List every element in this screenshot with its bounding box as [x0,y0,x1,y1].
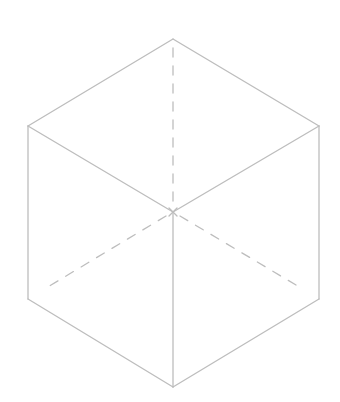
edge-top-upper-left [28,39,173,126]
edge-lower-left-bottom [28,299,173,387]
edge-upper-right-center [173,126,319,212]
hidden-edge-lower-left [46,216,166,288]
cube-svg [0,0,340,402]
edge-top-upper-right [173,39,319,126]
edge-upper-left-center [28,126,173,212]
edge-lower-right-bottom [173,299,319,387]
cube-diagram [0,0,340,402]
hidden-edge-lower-right [180,216,301,288]
